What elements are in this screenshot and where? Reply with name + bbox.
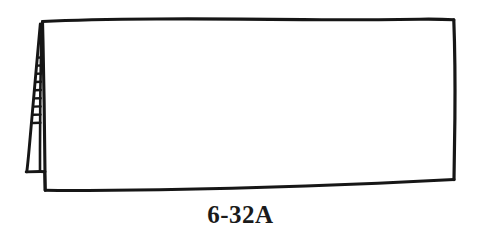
ladder-leg-group [26, 24, 45, 190]
ladder-foot-riser [45, 172, 46, 190]
figure-container: 6-32A [0, 0, 481, 243]
figure-caption: 6-32A [0, 198, 481, 232]
panel-right-edge [454, 20, 455, 180]
panel-left-edge [43, 22, 46, 191]
main-panel-group [43, 19, 456, 191]
panel-top-edge [43, 19, 454, 22]
panel-bottom-edge [45, 180, 454, 191]
